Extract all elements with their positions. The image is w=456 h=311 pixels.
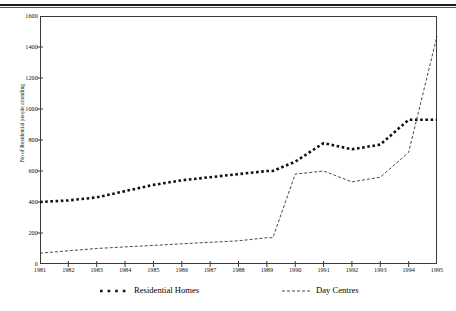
legend-label: Residential Homes	[134, 286, 199, 295]
thin-dashed-swatch	[282, 288, 312, 294]
legend-entry: Residential Homes	[100, 286, 199, 295]
data-series-layer	[40, 36, 437, 253]
axis-tick-marks	[37, 47, 409, 267]
series-line-day-centres	[40, 36, 437, 253]
legend-label: Day Centres	[316, 286, 359, 295]
chart-figure: No of Residential people attending 02004…	[0, 0, 456, 311]
legend-entry: Day Centres	[282, 286, 359, 295]
chart-legend: Residential HomesDay Centres	[0, 286, 456, 302]
thick-dotted-swatch	[100, 288, 130, 294]
chart-plot-svg	[0, 0, 456, 311]
series-line-residential-homes	[40, 120, 437, 202]
